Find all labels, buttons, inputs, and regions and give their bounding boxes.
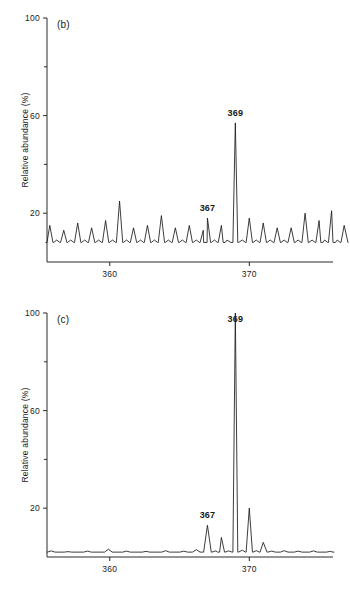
y-axis-tick-label: 60 (30, 111, 40, 121)
mass-spectra-figure: 2060100360370Relative abundance (%)(b)36… (0, 0, 350, 589)
panel-letter-label: (b) (57, 19, 70, 30)
spectrum-trace (47, 313, 334, 552)
peak-annotation-label: 369 (228, 108, 244, 118)
y-axis-title: Relative abundance (%) (20, 387, 30, 482)
panel-c-svg: 2060100360370Relative abundance (%)(c)36… (0, 295, 350, 589)
peak-annotation-label: 367 (200, 203, 216, 213)
x-axis-tick-label: 360 (102, 269, 117, 279)
peak-annotation-label: 369 (228, 314, 244, 324)
spectrum-trace (46, 123, 348, 243)
y-axis-tick-label: 20 (30, 503, 40, 513)
y-axis-tick-label: 20 (30, 208, 40, 218)
panel-c-chart: 2060100360370Relative abundance (%)(c)36… (0, 295, 350, 589)
y-axis-tick-label: 100 (25, 308, 40, 318)
panel-letter-label: (c) (57, 314, 69, 325)
x-axis-tick-label: 370 (242, 564, 257, 574)
y-axis-tick-label: 60 (30, 406, 40, 416)
panel-b-chart: 2060100360370Relative abundance (%)(b)36… (0, 0, 350, 295)
y-axis-tick-label: 100 (25, 13, 40, 23)
panel-b-svg: 2060100360370Relative abundance (%)(b)36… (0, 0, 350, 295)
y-axis-title: Relative abundance (%) (20, 92, 30, 187)
x-axis-tick-label: 370 (242, 269, 257, 279)
peak-annotation-label: 367 (200, 510, 216, 520)
x-axis-tick-label: 360 (102, 564, 117, 574)
